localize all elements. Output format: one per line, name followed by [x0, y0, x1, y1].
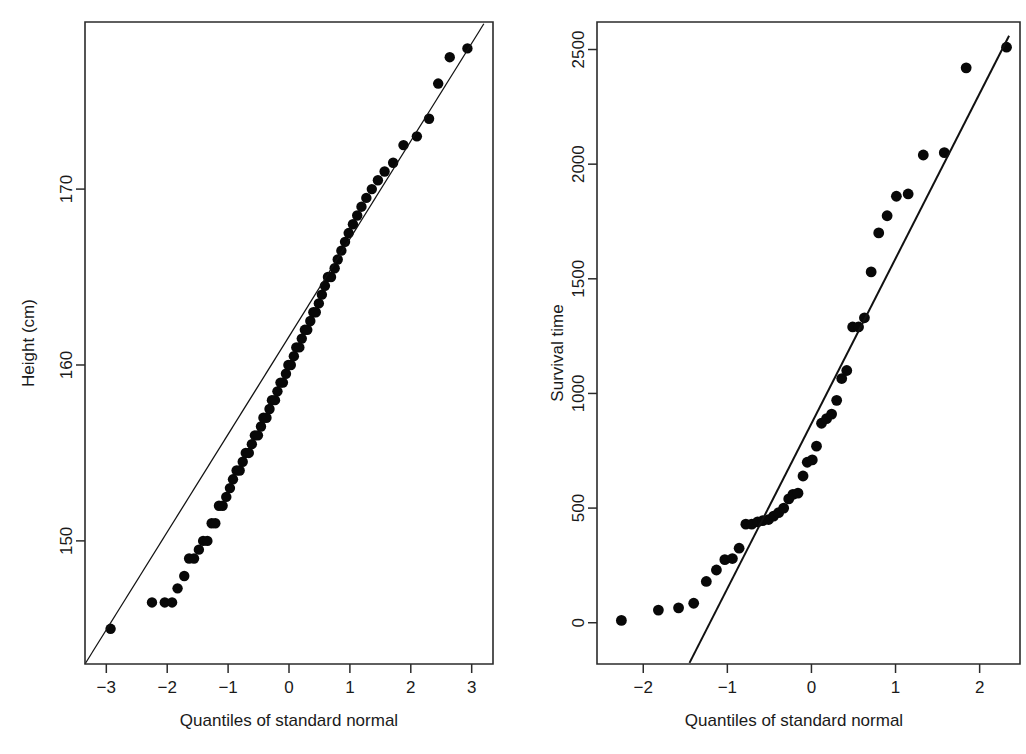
y-tick-label: 170: [57, 175, 76, 203]
x-tick-label: 0: [807, 678, 816, 697]
data-point: [798, 471, 809, 482]
y-tick-label: 1000: [569, 375, 588, 413]
data-point: [701, 576, 712, 587]
data-point: [189, 553, 199, 563]
data-point: [866, 267, 877, 278]
data-point: [734, 543, 745, 554]
y-tick-label: 0: [569, 618, 588, 627]
survival-reference-line: [690, 36, 1010, 663]
height-reference-line: [85, 24, 484, 664]
data-point: [793, 488, 804, 499]
data-point: [210, 518, 220, 528]
data-point: [673, 602, 684, 613]
data-point: [373, 175, 383, 185]
qq-plot-figure: −3−2−10123 150160170 Quantiles of standa…: [0, 0, 1026, 754]
survival-plot-frame: [597, 22, 1020, 664]
y-tick-label: 2500: [569, 31, 588, 69]
data-point: [367, 184, 377, 194]
data-point: [711, 565, 722, 576]
data-point: [281, 369, 291, 379]
data-point: [179, 571, 189, 581]
survival-y-axis-ticks: 05001000150020002500: [569, 31, 597, 628]
x-tick-label: 0: [284, 678, 293, 697]
data-point: [811, 441, 822, 452]
data-point: [882, 210, 893, 221]
data-point: [289, 351, 299, 361]
data-point: [616, 615, 627, 626]
height-x-axis-ticks: −3−2−10123: [97, 664, 477, 697]
data-point: [807, 455, 818, 466]
data-point: [653, 605, 664, 616]
y-tick-label: 150: [57, 527, 76, 555]
data-point: [433, 78, 443, 88]
data-point: [379, 166, 389, 176]
height-y-axis-ticks: 150160170: [57, 175, 85, 555]
data-point: [202, 536, 212, 546]
data-point: [147, 597, 157, 607]
x-tick-label: 1: [345, 678, 354, 697]
x-tick-label: −3: [97, 678, 116, 697]
data-point: [398, 140, 408, 150]
data-point: [167, 597, 177, 607]
y-tick-label: 160: [57, 351, 76, 379]
height-y-axis-title: Height (cm): [19, 299, 38, 387]
survival-y-axis-title: Survival time: [548, 304, 567, 401]
data-point: [961, 62, 972, 73]
x-tick-label: 2: [406, 678, 415, 697]
survival-x-axis-ticks: −2−1012: [634, 664, 985, 697]
data-point: [688, 598, 699, 609]
x-tick-label: 3: [467, 678, 476, 697]
data-point: [841, 365, 852, 376]
x-tick-label: −1: [218, 678, 237, 697]
y-tick-label: 1500: [569, 260, 588, 298]
data-point: [361, 193, 371, 203]
x-tick-label: −2: [634, 678, 653, 697]
x-tick-label: 1: [891, 678, 900, 697]
survival-data-points: [616, 42, 1012, 626]
data-point: [172, 583, 182, 593]
data-point: [264, 404, 274, 414]
survival-x-axis-title: Quantiles of standard normal: [685, 711, 903, 730]
data-point: [727, 553, 738, 564]
data-point: [873, 228, 884, 239]
survival-qq-svg: −2−1012 05001000150020002500 Quantiles o…: [513, 0, 1026, 754]
data-point: [826, 409, 837, 420]
height-qq-svg: −3−2−10123 150160170 Quantiles of standa…: [0, 0, 513, 754]
y-tick-label: 500: [569, 494, 588, 522]
data-point: [356, 201, 366, 211]
height-qq-panel: −3−2−10123 150160170 Quantiles of standa…: [0, 0, 513, 754]
height-x-axis-title: Quantiles of standard normal: [180, 711, 398, 730]
height-data-points: [105, 43, 472, 634]
data-point: [831, 395, 842, 406]
x-tick-label: −2: [158, 678, 177, 697]
data-point: [270, 395, 280, 405]
x-tick-label: −1: [718, 678, 737, 697]
data-point: [294, 342, 304, 352]
data-point: [445, 52, 455, 62]
data-point: [256, 421, 266, 431]
data-point: [918, 150, 929, 161]
data-point: [903, 189, 914, 200]
y-tick-label: 2000: [569, 145, 588, 183]
x-tick-label: 2: [975, 678, 984, 697]
survival-qq-panel: −2−1012 05001000150020002500 Quantiles o…: [513, 0, 1026, 754]
data-point: [891, 191, 902, 202]
data-point: [778, 503, 789, 514]
